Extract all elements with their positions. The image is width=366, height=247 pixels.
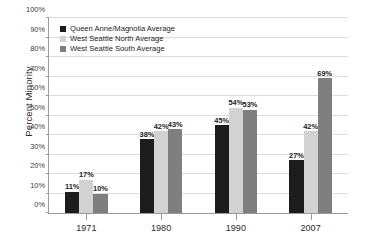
legend-item-label: West Seattle South Average: [70, 45, 165, 53]
y-axis-tick-label: 20%: [30, 161, 45, 170]
legend-swatch-icon: [60, 26, 66, 32]
y-axis-tick-mark: [46, 76, 49, 77]
bar[interactable]: [154, 131, 168, 213]
legend-item[interactable]: Queen Anne/Magnolia Average: [60, 25, 175, 33]
bar-column[interactable]: 53%: [243, 18, 257, 213]
y-axis-tick-label: 80%: [30, 44, 45, 53]
y-axis-tick-label: 10%: [30, 180, 45, 189]
y-axis-tick-mark: [46, 17, 49, 18]
bar[interactable]: [229, 108, 243, 213]
bar[interactable]: [168, 129, 182, 213]
bar-value-label: 11%: [65, 183, 79, 190]
bar[interactable]: [215, 125, 229, 213]
y-axis-tick-mark: [46, 56, 49, 57]
bar-value-label: 43%: [168, 121, 183, 128]
y-axis-tick-label: 100%: [26, 5, 45, 14]
bar-value-label: 53%: [243, 101, 258, 108]
y-axis-tick-mark: [46, 134, 49, 135]
bar-value-label: 10%: [93, 185, 108, 192]
bar-value-label: 42%: [303, 123, 318, 130]
bar[interactable]: [140, 139, 154, 213]
x-axis-tick-label: 1971: [76, 223, 96, 233]
bar-value-label: 17%: [79, 171, 94, 178]
x-axis-tick-mark: [236, 213, 237, 220]
bar-group: 27%42%69%: [289, 18, 331, 213]
bar[interactable]: [79, 180, 93, 213]
legend-item[interactable]: West Seattle South Average: [60, 45, 175, 53]
bar[interactable]: [289, 160, 303, 213]
y-axis-tick-label: 70%: [30, 63, 45, 72]
bar[interactable]: [65, 192, 79, 213]
bar-value-label: 38%: [140, 131, 155, 138]
y-axis-tick-mark: [46, 154, 49, 155]
x-axis-tick-mark: [161, 213, 162, 220]
bar-column[interactable]: 42%: [304, 18, 318, 213]
y-axis-tick-label: 30%: [30, 141, 45, 150]
bar-value-label: 42%: [154, 123, 169, 130]
bar-value-label: 27%: [289, 152, 304, 159]
y-axis-tick-mark: [46, 95, 49, 96]
bar-value-label: 45%: [214, 117, 229, 124]
legend-item[interactable]: West Seattle North Average: [60, 35, 175, 43]
bar-column[interactable]: 27%: [289, 18, 303, 213]
legend-item-label: Queen Anne/Magnolia Average: [70, 25, 175, 33]
y-axis-tick-mark: [46, 193, 49, 194]
y-axis-tick-mark: [46, 212, 49, 213]
x-axis-tick-mark: [311, 213, 312, 220]
bar[interactable]: [304, 131, 318, 213]
y-axis-tick-mark: [46, 37, 49, 38]
bar-value-label: 54%: [228, 99, 243, 106]
x-axis-tick-mark: [86, 213, 87, 220]
y-axis-tick-mark: [46, 115, 49, 116]
bar-chart: Percent Minority 0%10%20%30%40%50%60%70%…: [0, 0, 366, 247]
y-axis-tick-label: 50%: [30, 102, 45, 111]
legend: Queen Anne/Magnolia AverageWest Seattle …: [60, 25, 175, 53]
bar-column[interactable]: 69%: [318, 18, 332, 213]
legend-swatch-icon: [60, 46, 66, 52]
x-axis-tick-label: 2007: [301, 223, 321, 233]
x-axis-tick-label: 1990: [226, 223, 246, 233]
y-axis-tick-label: 0%: [34, 200, 45, 209]
bar[interactable]: [318, 78, 332, 213]
bar-value-label: 69%: [317, 70, 332, 77]
bar[interactable]: [243, 110, 257, 213]
bar[interactable]: [93, 194, 107, 214]
x-axis-tick-label: 1980: [151, 223, 171, 233]
legend-item-label: West Seattle North Average: [70, 35, 163, 43]
legend-swatch-icon: [60, 36, 66, 42]
y-axis-tick-label: 90%: [30, 24, 45, 33]
bar-column[interactable]: 54%: [229, 18, 243, 213]
y-axis-tick-label: 40%: [30, 122, 45, 131]
y-axis-tick-mark: [46, 173, 49, 174]
bar-column[interactable]: 45%: [215, 18, 229, 213]
bar-group: 45%54%53%: [215, 18, 257, 213]
y-axis-tick-label: 60%: [30, 83, 45, 92]
